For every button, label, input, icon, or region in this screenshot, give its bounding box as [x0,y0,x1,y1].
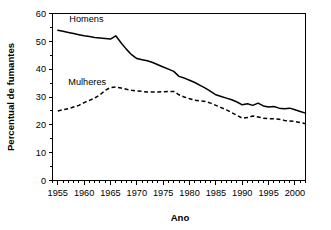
chart-figure: 0102030405060 19551960196519701975198019… [0,0,331,230]
y-tick-label: 10 [36,148,46,158]
series-label-mulheres: Mulheres [68,77,106,87]
x-tick-label: 1985 [206,188,226,198]
x-tick-label: 1970 [127,188,147,198]
x-tick-label: 1975 [153,188,173,198]
y-tick-label: 40 [36,64,46,74]
y-tick-label: 0 [41,176,46,186]
x-tick-label: 1990 [232,188,252,198]
y-axis-title: Percentual de fumantes [5,43,16,151]
x-tick-label: 1980 [179,188,199,198]
x-tick-label: 1960 [74,188,94,198]
x-axis-title: Ano [171,212,190,223]
y-tick-label: 60 [36,9,46,19]
x-tick-label: 1965 [100,188,120,198]
y-tick-label: 20 [36,120,46,130]
x-tick-label: 2000 [285,188,305,198]
x-tick-label: 1995 [258,188,278,198]
series-label-homens: Homens [69,14,104,24]
y-tick-label: 30 [36,92,46,102]
x-tick-label: 1955 [48,188,68,198]
y-tick-label: 50 [36,37,46,47]
smoking-percentage-line-chart: 0102030405060 19551960196519701975198019… [0,0,331,230]
